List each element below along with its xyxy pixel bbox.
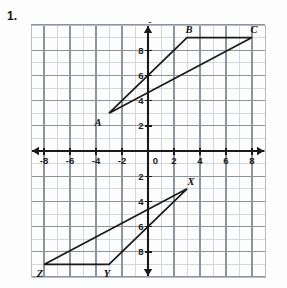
vertex-label-y: Y [104, 268, 112, 279]
y-axis-label: y [148, 22, 156, 23]
tick-label: 8 [138, 246, 143, 257]
vertex-label-x: X [186, 176, 195, 187]
tick-label: -6 [66, 155, 74, 166]
axis-lines [32, 26, 264, 276]
tick-label: 6 [223, 155, 228, 166]
tick-label: 4 [138, 196, 144, 207]
tick-label: 6 [138, 70, 143, 81]
tick-label: -8 [40, 155, 48, 166]
vertex-label-b: B [184, 24, 192, 35]
vertex-label-z: Z [36, 268, 44, 279]
worksheet-figure-panel: 1. -8-6-4-22468024682468 ABCXYZ x y [0, 0, 287, 288]
vertex-label-a: A [93, 117, 101, 128]
problem-number: 1. [7, 9, 17, 23]
tick-label: 2 [138, 120, 143, 131]
tick-label: 6 [138, 221, 143, 232]
tick-label: 0 [153, 155, 158, 166]
tick-label: -2 [118, 155, 126, 166]
tick-label: 2 [171, 155, 176, 166]
tick-label: 8 [138, 45, 143, 56]
tick-label: 8 [249, 155, 254, 166]
tick-label: 4 [197, 155, 203, 166]
tick-label: 2 [138, 171, 143, 182]
vertex-label-c: C [250, 24, 258, 35]
tick-label: -4 [92, 155, 101, 166]
coordinate-plane-figure: -8-6-4-22468024682468 ABCXYZ x y [28, 22, 268, 280]
coordinate-plane-svg: -8-6-4-22468024682468 ABCXYZ x y [28, 22, 268, 280]
